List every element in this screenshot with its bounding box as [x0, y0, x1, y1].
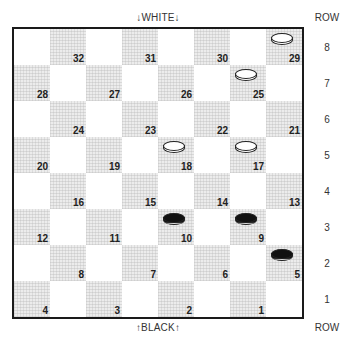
square-10: 10: [158, 209, 194, 245]
light-square: [158, 245, 194, 281]
light-square: [86, 101, 122, 137]
light-square: [158, 101, 194, 137]
white-side-label: ↓WHITE↓: [12, 12, 304, 23]
square-number: 23: [145, 125, 156, 136]
square-number: 6: [222, 269, 228, 280]
square-number: 32: [73, 53, 84, 64]
square-number: 27: [109, 89, 120, 100]
light-square: [230, 245, 266, 281]
row-header-bottom: ROW: [312, 322, 342, 333]
square-number: 12: [37, 233, 48, 244]
light-square: [86, 29, 122, 65]
light-square: [14, 245, 50, 281]
checkers-board: 3231302928272625242322212019181716151413…: [12, 27, 304, 319]
piece-rim: [165, 221, 183, 224]
white-checker-piece: [163, 141, 185, 155]
square-20: 20: [14, 137, 50, 173]
square-6: 6: [194, 245, 230, 281]
square-8: 8: [50, 245, 86, 281]
white-checker-piece: [235, 141, 257, 155]
light-square: [194, 209, 230, 245]
square-5: 5: [266, 245, 302, 281]
square-number: 16: [73, 197, 84, 208]
light-square: [122, 137, 158, 173]
square-2: 2: [158, 281, 194, 317]
piece-top: [271, 33, 293, 43]
square-14: 14: [194, 173, 230, 209]
square-21: 21: [266, 101, 302, 137]
square-19: 19: [86, 137, 122, 173]
square-26: 26: [158, 65, 194, 101]
light-square: [266, 209, 302, 245]
row-header-top: ROW: [312, 12, 342, 23]
square-12: 12: [14, 209, 50, 245]
square-number: 7: [150, 269, 156, 280]
light-square: [122, 209, 158, 245]
square-18: 18: [158, 137, 194, 173]
square-9: 9: [230, 209, 266, 245]
square-32: 32: [50, 29, 86, 65]
square-number: 20: [37, 161, 48, 172]
black-side-label: ↑BLACK↑: [12, 322, 304, 333]
square-number: 18: [181, 161, 192, 172]
light-square: [86, 173, 122, 209]
light-square: [122, 281, 158, 317]
light-square: [266, 281, 302, 317]
square-28: 28: [14, 65, 50, 101]
row-number: 6: [312, 114, 342, 125]
square-7: 7: [122, 245, 158, 281]
light-square: [266, 65, 302, 101]
light-square: [50, 209, 86, 245]
square-31: 31: [122, 29, 158, 65]
square-23: 23: [122, 101, 158, 137]
square-number: 11: [109, 233, 120, 244]
square-number: 2: [186, 305, 192, 316]
square-number: 21: [289, 125, 300, 136]
light-square: [230, 29, 266, 65]
square-number: 10: [181, 233, 192, 244]
row-number: 8: [312, 42, 342, 53]
square-3: 3: [86, 281, 122, 317]
light-square: [194, 281, 230, 317]
light-square: [230, 173, 266, 209]
row-number: 1: [312, 294, 342, 305]
light-square: [158, 173, 194, 209]
square-number: 30: [217, 53, 228, 64]
light-square: [194, 65, 230, 101]
light-square: [122, 65, 158, 101]
square-number: 31: [145, 53, 156, 64]
light-square: [14, 101, 50, 137]
square-17: 17: [230, 137, 266, 173]
white-checker-piece: [271, 33, 293, 47]
row-number: 5: [312, 150, 342, 161]
piece-top: [163, 141, 185, 151]
white-checker-piece: [235, 69, 257, 83]
square-16: 16: [50, 173, 86, 209]
square-number: 19: [109, 161, 120, 172]
square-30: 30: [194, 29, 230, 65]
row-number: 2: [312, 258, 342, 269]
light-square: [50, 65, 86, 101]
square-24: 24: [50, 101, 86, 137]
piece-rim: [237, 221, 255, 224]
piece-top: [235, 69, 257, 79]
square-27: 27: [86, 65, 122, 101]
square-number: 1: [258, 305, 264, 316]
square-4: 4: [14, 281, 50, 317]
square-number: 28: [37, 89, 48, 100]
row-number: 7: [312, 78, 342, 89]
square-number: 17: [253, 161, 264, 172]
black-checker-piece: [271, 249, 293, 263]
light-square: [266, 137, 302, 173]
light-square: [14, 29, 50, 65]
row-number: 3: [312, 222, 342, 233]
black-checker-piece: [235, 213, 257, 227]
square-number: 14: [217, 197, 228, 208]
light-square: [50, 281, 86, 317]
light-square: [14, 173, 50, 209]
square-number: 15: [145, 197, 156, 208]
square-number: 29: [289, 53, 300, 64]
square-15: 15: [122, 173, 158, 209]
square-13: 13: [266, 173, 302, 209]
light-square: [194, 137, 230, 173]
